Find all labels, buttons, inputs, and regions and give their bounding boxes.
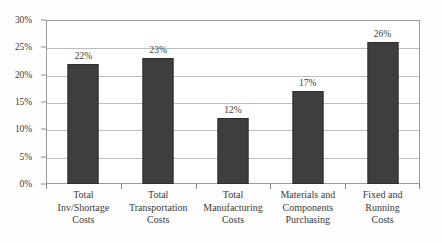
x-axis-category-label: TotalTransportationCosts (121, 189, 196, 227)
x-axis-category-label: Fixed andRunningCosts (345, 189, 420, 227)
y-axis-tick-label: 20% (15, 70, 32, 80)
gridline (47, 48, 419, 49)
plot-area (46, 20, 420, 184)
x-axis-category-label-line: Purchasing (270, 214, 345, 227)
y-axis-tick-label: 15% (15, 97, 32, 107)
y-axis-tick-label: 10% (15, 124, 32, 134)
y-axis-tick-label: 30% (15, 15, 32, 25)
y-axis: 0%5%10%15%20%25%30% (0, 0, 40, 243)
x-axis-category-label-line: Components (270, 202, 345, 215)
x-axis-category-label: TotalInv/ShortageCosts (46, 189, 121, 227)
x-axis-category-label: TotalManufacturingCosts (196, 189, 271, 227)
y-axis-tick-label: 5% (20, 152, 32, 162)
gridline (47, 130, 419, 131)
x-axis: TotalInv/ShortageCostsTotalTransportatio… (46, 189, 420, 241)
x-axis-category-label-line: Costs (46, 214, 121, 227)
x-axis-category-label-line: Transportation (121, 202, 196, 215)
gridline (47, 76, 419, 77)
gridline (47, 158, 419, 159)
x-axis-category-label-line: Costs (121, 214, 196, 227)
x-axis-category-label-line: Total (196, 189, 271, 202)
y-axis-tick-label: 25% (15, 42, 32, 52)
x-axis-category-label: Materials andComponentsPurchasing (270, 189, 345, 227)
bar-chart: 0%5%10%15%20%25%30% 22%23%12%17%26% Tota… (0, 0, 442, 243)
x-axis-category-label-line: Costs (345, 214, 420, 227)
x-axis-category-label-line: Costs (196, 214, 271, 227)
x-axis-category-label-line: Fixed and (345, 189, 420, 202)
x-axis-category-label-line: Running (345, 202, 420, 215)
x-axis-category-label-line: Total (121, 189, 196, 202)
x-axis-category-label-line: Inv/Shortage (46, 202, 121, 215)
gridline (47, 103, 419, 104)
y-axis-tick-label: 0% (20, 179, 32, 189)
x-axis-category-label-line: Manufacturing (196, 202, 271, 215)
x-axis-category-label-line: Total (46, 189, 121, 202)
x-axis-category-label-line: Materials and (270, 189, 345, 202)
